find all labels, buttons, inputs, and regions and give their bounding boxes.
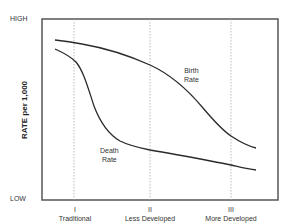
death-rate-label-line2: Rate bbox=[100, 155, 119, 164]
x-stage-ii-label: Less Developed bbox=[125, 214, 175, 223]
x-stage-ii: II Less Developed bbox=[125, 205, 175, 223]
chart-plot bbox=[0, 0, 290, 224]
plot-frame bbox=[42, 19, 278, 200]
x-stage-i: I Traditional bbox=[59, 205, 91, 223]
birth-rate-label-line1: Birth bbox=[184, 66, 199, 75]
x-stage-iii-numeral: III bbox=[205, 205, 256, 214]
x-stage-iii-label: More Developed bbox=[205, 214, 256, 223]
x-stage-ii-numeral: II bbox=[125, 205, 175, 214]
birth-rate-line bbox=[55, 40, 256, 148]
x-stage-i-numeral: I bbox=[59, 205, 91, 214]
x-stage-i-label: Traditional bbox=[59, 214, 91, 223]
y-low-label: LOW bbox=[10, 195, 26, 202]
y-axis-title: RATE per 1,000 bbox=[20, 81, 29, 139]
birth-rate-label-line2: Rate bbox=[184, 75, 199, 84]
x-stage-iii: III More Developed bbox=[205, 205, 256, 223]
death-rate-label-line1: Death bbox=[100, 146, 119, 155]
y-high-label: HIGH bbox=[10, 15, 28, 22]
death-rate-label: Death Rate bbox=[100, 146, 119, 164]
birth-rate-label: Birth Rate bbox=[184, 66, 199, 84]
